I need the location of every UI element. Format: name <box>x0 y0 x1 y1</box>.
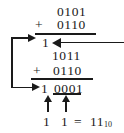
conclusion-digit-right: 1 <box>61 115 68 129</box>
second-addend-b: 0110 <box>53 64 82 78</box>
conclusion-digit-left: 1 <box>43 115 50 129</box>
binary-addition-diagram: 0101 + 0110 1 1011 + 0110 1 0001 1 1 = 1… <box>0 0 124 133</box>
conclusion-value: 11 <box>90 115 104 129</box>
pointer-right-shaft <box>65 101 67 112</box>
conclusion-equals-sign: = <box>74 115 82 129</box>
first-plus-sign: + <box>35 18 43 32</box>
pointer-left-shaft <box>47 101 49 112</box>
feedback-loop-bottom-arrow-head-icon <box>32 83 40 91</box>
carry-in-arrow-shaft <box>58 42 124 44</box>
pointer-left-arrow-head-icon <box>44 95 52 102</box>
second-sum-rule <box>31 78 93 80</box>
carry-in-arrow-head-icon <box>52 38 61 48</box>
feedback-loop-bottom-shaft <box>11 87 33 89</box>
feedback-loop-top-arrow-head-icon <box>28 34 36 42</box>
first-result-carry: 1 <box>42 36 49 50</box>
second-addend-a: 1011 <box>52 49 81 63</box>
pointer-right-arrow-head-icon <box>62 95 70 102</box>
feedback-loop-vertical <box>11 37 13 88</box>
conclusion-base-subscript: 10 <box>104 121 112 129</box>
feedback-loop-top-shaft <box>11 37 29 39</box>
second-result-carry: 1 <box>41 82 48 96</box>
first-addend-b: 0110 <box>57 18 86 32</box>
second-plus-sign: + <box>33 64 41 78</box>
